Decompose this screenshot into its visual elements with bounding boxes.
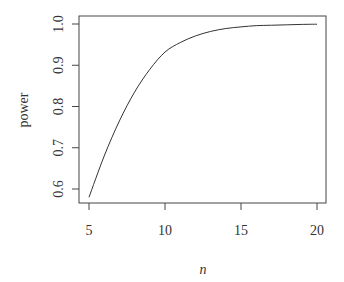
x-tick-label: 20 <box>310 223 324 238</box>
power-curve-chart: 0.60.70.80.91.0 5101520 n power <box>0 0 344 282</box>
x-axis-title: n <box>200 262 207 277</box>
y-axis-title: power <box>16 92 31 127</box>
y-tick-label: 1.0 <box>51 15 66 33</box>
y-tick-label: 0.8 <box>51 98 66 116</box>
plot-frame <box>79 16 326 203</box>
x-axis: 5101520 <box>86 203 325 238</box>
y-tick-label: 0.6 <box>51 180 66 198</box>
x-tick-label: 5 <box>86 223 93 238</box>
x-tick-label: 10 <box>158 223 172 238</box>
x-tick-label: 15 <box>234 223 248 238</box>
y-tick-label: 0.9 <box>51 57 66 75</box>
power-line <box>89 24 317 197</box>
y-tick-label: 0.7 <box>51 139 66 157</box>
y-axis: 0.60.70.80.91.0 <box>51 15 79 198</box>
